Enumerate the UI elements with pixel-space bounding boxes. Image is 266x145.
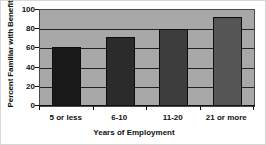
- x-tick-mark: [200, 106, 201, 110]
- x-tick-mark: [253, 106, 254, 110]
- x-tick-mark: [146, 106, 147, 110]
- x-axis-tick-labels: 5 or less6-1011-2021 or more: [39, 113, 253, 122]
- bar-slot: [40, 10, 94, 106]
- bar: [159, 29, 188, 106]
- bar-series: [40, 10, 254, 106]
- y-tick-mark: [35, 47, 39, 48]
- bar-slot: [147, 10, 201, 106]
- y-tick-label: 20: [13, 81, 35, 90]
- x-tick-mark: [93, 106, 94, 110]
- bar-chart-figure: Percent Familiar with Benefit 0204060801…: [0, 0, 266, 145]
- x-tick-mark: [39, 106, 40, 110]
- y-tick-label: 60: [13, 43, 35, 52]
- y-tick-label: 100: [13, 5, 35, 14]
- y-axis-tick-labels: 020406080100: [13, 9, 35, 105]
- y-tick-mark: [35, 9, 39, 10]
- bar: [213, 17, 242, 106]
- x-axis-line: [39, 105, 255, 106]
- x-tick-label: 21 or more: [200, 113, 254, 122]
- y-tick-label: 80: [13, 24, 35, 33]
- bar: [52, 47, 81, 106]
- y-tick-mark: [35, 67, 39, 68]
- y-tick-mark: [35, 28, 39, 29]
- bar-slot: [201, 10, 255, 106]
- x-tick-label: 11-20: [146, 113, 200, 122]
- bar: [106, 37, 135, 106]
- y-tick-label: 0: [13, 101, 35, 110]
- x-tick-label: 6-10: [93, 113, 147, 122]
- x-tick-label: 5 or less: [39, 113, 93, 122]
- plot-area: [39, 9, 255, 107]
- bar-slot: [94, 10, 148, 106]
- y-tick-mark: [35, 86, 39, 87]
- x-axis-title: Years of Employment: [1, 128, 266, 137]
- y-tick-label: 40: [13, 62, 35, 71]
